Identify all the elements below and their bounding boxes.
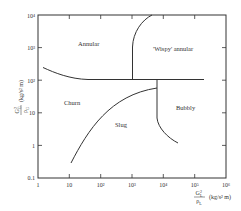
y-tick-label: 10⁴ <box>27 13 35 19</box>
slug-bubbly-boundary <box>157 80 178 144</box>
region-label-annular: Annular <box>78 40 100 47</box>
x-tick-label: 10⁶ <box>222 182 230 188</box>
svg-text:ρL: ρL <box>196 198 202 206</box>
annular-churn-boundary <box>43 68 204 80</box>
annular-wispy-boundary <box>133 15 153 80</box>
region-label-churn: Churn <box>64 99 81 106</box>
x-tick-label: 10 <box>66 182 72 188</box>
y-tick-label: 0.1 <box>28 175 36 181</box>
svg-text:(kg/s² m): (kg/s² m) <box>18 80 25 102</box>
regime-boundaries <box>43 15 204 163</box>
region-label-bubbly: Bubbly <box>176 104 196 111</box>
y-tick-label: 10² <box>27 78 35 84</box>
y-axis-label: GG2 ρG (kg/s² m) <box>13 80 30 115</box>
region-label-wispy-annular: 'Wispy' annular <box>153 45 194 52</box>
x-tick-label: 1 <box>37 182 40 188</box>
plot-frame <box>38 15 226 178</box>
x-axis-label: GL2 ρL (kg/s² m) <box>194 189 231 206</box>
x-tick-label: 10³ <box>128 182 136 188</box>
svg-text:(kg/s² m): (kg/s² m) <box>209 194 231 201</box>
svg-text:GL2: GL2 <box>196 189 203 198</box>
region-label-slug: Slug <box>115 121 128 128</box>
flow-regime-chart: 1 10 10² 10³ 10⁴ 10⁵ 10⁶ 0.1 1 10 10² 10… <box>0 0 241 211</box>
y-tick-label: 1 <box>32 143 35 149</box>
churn-slug-boundary <box>71 88 157 163</box>
x-tick-label: 10⁵ <box>191 182 199 188</box>
y-tick-label: 10 <box>29 110 35 116</box>
x-tick-label: 10² <box>97 182 105 188</box>
y-tick-label: 10³ <box>27 45 35 51</box>
svg-text:GG2: GG2 <box>13 106 22 113</box>
x-tick-label: 10⁴ <box>159 182 167 188</box>
